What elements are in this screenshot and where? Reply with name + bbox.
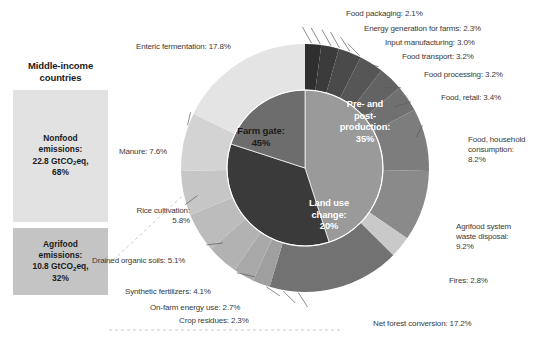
callout-input-manufacturing: Input manufacturing: 3.0% [385,38,475,48]
agrifood-share: 32% [52,273,69,284]
callout-manure: Manure: 7.6% [119,147,167,157]
center-label-land-use-change: Land use change: 20% [293,198,365,233]
infographic-canvas: Middle-income countries Nonfood emission… [0,0,555,337]
callout-enteric-fermentation: Enteric fermentation: 17.8% [136,42,231,52]
callout-net-forest-conversion: Net forest conversion: 17.2% [373,319,472,329]
bar-segment-nonfood: Nonfood emissions: 22.8 GtCO2eq, 68% [13,90,108,222]
nonfood-share: 68% [52,167,69,178]
leader-line [283,291,295,303]
callout-food-packaging: Food packaging: 2.1% [346,9,423,19]
callout-food-transport: Food transport: 3.2% [402,52,474,62]
nonfood-label-line1: Nonfood [43,133,77,144]
nonfood-value: 22.8 GtCO2eq, [32,156,88,167]
leader-line [303,27,312,43]
callout-on-farm-energy-use: On-farm energy use: 2.7% [150,303,240,313]
callout-drained-organic-soils: Drained organic soils: 5.1% [92,256,185,266]
agrifood-label-line2: emissions: [39,250,83,261]
leader-line [322,30,331,46]
callout-food-retail: Food, retail: 3.4% [441,93,501,103]
callout-fires: Fires: 2.8% [449,276,488,286]
nested-donut-chart [180,18,430,318]
callout-food-household-consumption: Food, household consumption: 8.2% [468,135,550,164]
agrifood-label-line1: Agrifood [43,239,78,250]
callout-rice-cultivation: Rice cultivation: 5.8% [118,206,190,226]
agrifood-value: 10.8 GtCO2eq, [32,261,88,272]
center-label-pre-post-production: Pre- and post- production: 35% [326,99,404,145]
callout-synthetic-fertilizers: Synthetic fertilizers: 4.1% [125,287,211,297]
leader-line [330,32,339,48]
leader-line [298,293,307,307]
callout-crop-residues: Crop residues: 2.3% [179,316,249,326]
nonfood-label-line2: emissions: [39,144,83,155]
callout-energy-generation-for-farms: Energy generation for farms: 2.3% [364,24,481,34]
center-label-farm-gate: Farm gate: 45% [222,125,300,149]
panel-title: Middle-income countries [13,60,108,84]
callout-agrifood-system-waste-disposal: Agrifood system waste disposal: 9.2% [456,222,542,251]
callout-food-processing: Food processing: 3.2% [424,70,503,80]
leader-line [311,28,320,44]
